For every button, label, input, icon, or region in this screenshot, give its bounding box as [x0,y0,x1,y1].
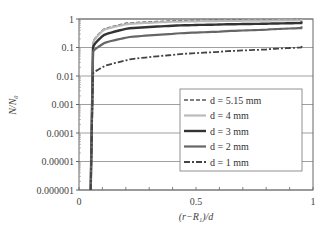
y-tick-label: 0.000001 [37,185,75,196]
legend-entry: d = 3 mm [210,126,249,137]
y-tick-label: 0.0001 [47,128,75,139]
y-tick-label: 0.1 [62,42,75,53]
legend: d = 5.15 mmd = 4 mmd = 3 mmd = 2 mmd = 1… [180,89,302,171]
legend-entry: d = 1 mm [210,157,249,168]
y-tick-label: 1 [69,14,74,25]
y-tick-label: 0.01 [57,71,75,82]
y-tick-label: 0.001 [52,99,75,110]
x-tick-label: 0.5 [190,196,203,207]
y-tick-label: 0.00001 [42,156,75,167]
legend-entry: d = 5.15 mm [210,95,261,106]
y-axis-ticks: 0.0000010.000010.00010.0010.010.11 [37,14,82,196]
x-tick-label: 0 [77,196,82,207]
legend-entry: d = 4 mm [210,110,249,121]
y-axis-title: N/N₀ [7,95,18,116]
chart: 0.0000010.000010.00010.0010.010.11 00.51… [0,0,329,237]
x-tick-label: 1 [311,196,316,207]
legend-entry: d = 2 mm [210,141,249,152]
x-axis-title: (r−R₁)/d [179,211,215,223]
